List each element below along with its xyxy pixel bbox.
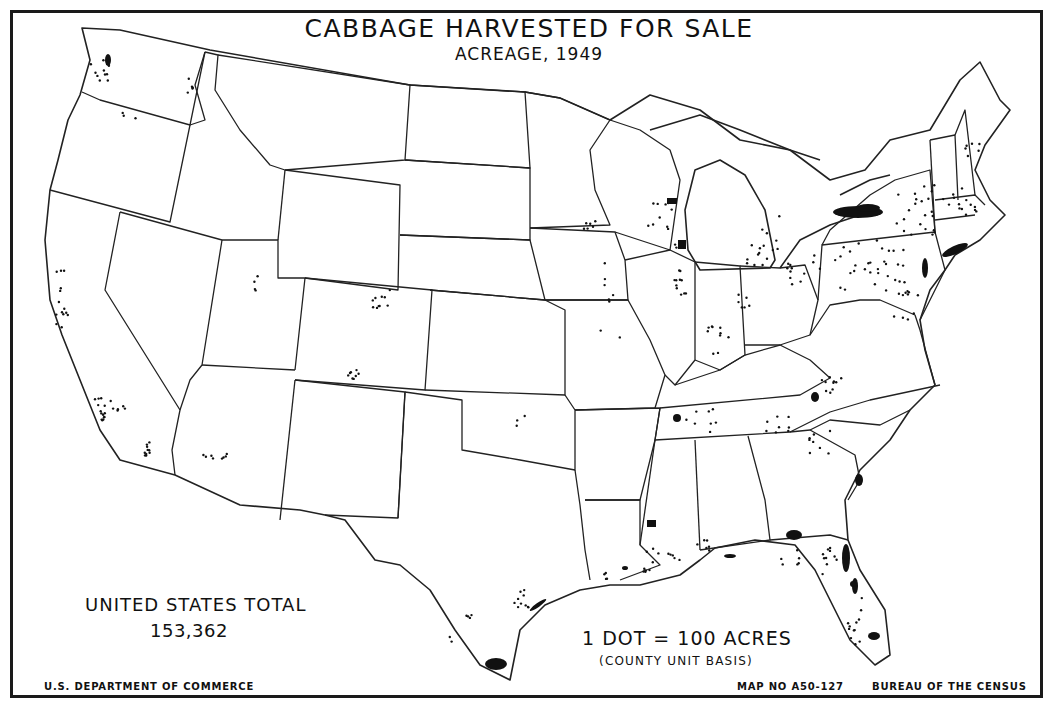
acreage-dot (652, 561, 654, 563)
legend-basis: (COUNTY UNIT BASIS) (599, 654, 753, 668)
acreage-dot (854, 264, 856, 266)
acreage-dot (603, 284, 605, 286)
acreage-dot (188, 78, 190, 80)
acreage-dot (669, 553, 671, 555)
acreage-dot (191, 87, 193, 89)
acreage-dot (894, 279, 896, 281)
acreage-dot (643, 568, 645, 570)
acreage-dot (381, 296, 383, 298)
acreage-dot (372, 306, 374, 308)
acreage-dot (934, 231, 936, 233)
acreage-dot (134, 117, 136, 119)
acreage-dot (933, 184, 935, 186)
acreage-dot (55, 323, 57, 325)
acreage-dot (854, 643, 856, 645)
acreage-dot (450, 640, 452, 642)
acreage-dot (864, 268, 866, 270)
acreage-dot (97, 404, 99, 406)
acreage-dot (933, 229, 935, 231)
acreage-dot (892, 250, 894, 252)
acreage-dot (775, 431, 777, 433)
acreage-dot (146, 443, 148, 445)
acreage-dot (812, 261, 814, 263)
acreage-dot (210, 455, 212, 457)
acreage-dot (772, 249, 774, 251)
acreage-dot (958, 207, 960, 209)
acreage-dot (859, 640, 861, 642)
acreage-dot (826, 563, 828, 565)
acreage-dot (834, 259, 836, 261)
acreage-dot (819, 447, 821, 449)
acreage-dot (829, 547, 831, 549)
acreage-dot (101, 418, 103, 420)
acreage-dot (753, 264, 755, 266)
acreage-dot (384, 296, 386, 298)
acreage-dot (896, 222, 898, 224)
acreage-dot (796, 549, 798, 551)
acreage-dot (737, 294, 739, 296)
acreage-dot (696, 543, 698, 545)
acreage-dot (467, 615, 469, 617)
acreage-dot (827, 548, 829, 550)
acreage-dot (694, 422, 696, 424)
acreage-dot (923, 185, 925, 187)
acreage-dot (67, 314, 69, 316)
acreage-dot (833, 555, 835, 557)
acreage-dot (61, 326, 63, 328)
acreage-dot (103, 416, 105, 418)
acreage-dot (819, 268, 821, 270)
acreage-dot (743, 306, 745, 308)
acreage-dot (374, 297, 376, 299)
acreage-dot (513, 602, 515, 604)
acreage-dot (100, 410, 102, 412)
acreage-dot (254, 288, 256, 290)
acreage-dot (881, 247, 883, 249)
acreage-dot (681, 247, 683, 249)
acreage-dot (470, 614, 472, 616)
acreage-dot (110, 400, 112, 402)
acreage-dot (789, 277, 791, 279)
scattered-dots (55, 59, 981, 645)
acreage-dot (705, 547, 707, 549)
acreage-dot (887, 275, 889, 277)
acreage-dot (746, 262, 748, 264)
acreage-dot (673, 279, 675, 281)
acreage-dot (874, 283, 876, 285)
acreage-dot (763, 245, 765, 247)
acreage-dot (746, 258, 748, 260)
acreage-dot (829, 550, 831, 552)
acreage-dot (917, 294, 919, 296)
acreage-dot (449, 636, 451, 638)
acreage-dot (148, 452, 150, 454)
acreage-dot (907, 293, 909, 295)
map-title: CABBAGE HARVESTED FOR SALE (0, 14, 1058, 43)
acreage-dot (974, 206, 976, 208)
acreage-dot (766, 421, 768, 423)
acreage-dot (122, 112, 124, 114)
acreage-dot (965, 199, 967, 201)
acreage-dot (96, 75, 98, 77)
acreage-dot (821, 379, 823, 381)
acreage-dot (832, 382, 834, 384)
acreage-dot (604, 262, 606, 264)
acreage-dot (877, 268, 879, 270)
acreage-dot (778, 215, 780, 217)
acreage-dot (952, 193, 954, 195)
acreage-dot (825, 390, 827, 392)
acreage-dot (927, 198, 929, 200)
acreage-dot (858, 618, 860, 620)
acreage-dot (351, 377, 353, 379)
acreage-dot (585, 222, 587, 224)
acreage-dot (860, 609, 862, 611)
acreage-dot (904, 292, 906, 294)
acreage-dot (100, 397, 102, 399)
acreage-dot (60, 270, 62, 272)
acreage-dot (978, 143, 980, 145)
acreage-dot (708, 410, 710, 412)
acreage-dot (822, 553, 824, 555)
acreage-dot (903, 230, 905, 232)
acreage-dot (902, 264, 904, 266)
acreage-dot (389, 289, 391, 291)
dot-clusters (105, 54, 969, 670)
acreage-dot (776, 415, 778, 417)
